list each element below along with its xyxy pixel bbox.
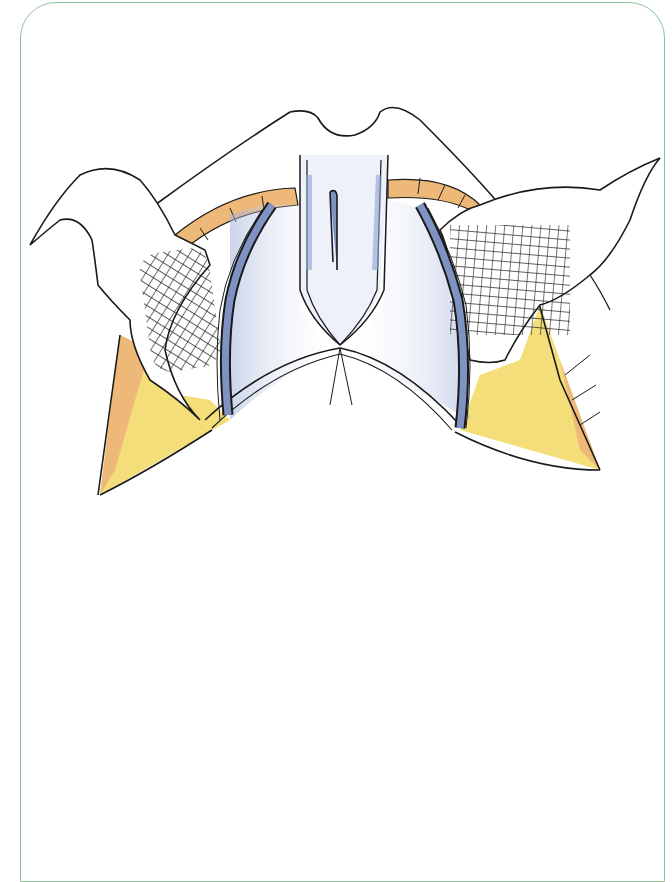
surgical-illustration bbox=[0, 0, 672, 858]
